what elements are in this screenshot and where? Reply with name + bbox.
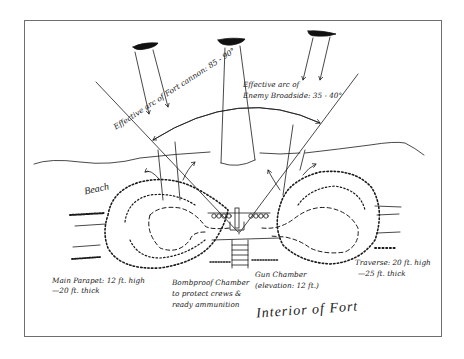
- main-parapet: [105, 180, 228, 269]
- bombproof-label-line2: to protect crews &: [172, 289, 241, 299]
- enemy-ship-center: [218, 38, 245, 45]
- enemy-ship-left: [133, 43, 158, 50]
- bombproof-label-line3: ready ammunition: [172, 300, 240, 310]
- bombproof-chamber: [210, 238, 280, 268]
- enemy-broadside-arc-label-line1: Effective arc of: [243, 80, 299, 90]
- gun-chamber: [208, 208, 270, 234]
- traverse: [277, 171, 379, 264]
- main-parapet-label-line1: Main Parapet: 12 ft. high: [52, 276, 145, 286]
- bombproof-label-line1: Bombproof Chamber: [172, 278, 249, 288]
- enemy-ship-right: [308, 31, 336, 36]
- traverse-label-line1: Traverse: 20 ft. high: [355, 258, 431, 268]
- gun-chamber-label-line2: (elevation: 12 ft.): [255, 281, 319, 291]
- gun-chamber-label-line1: Gun Chamber: [255, 270, 307, 280]
- traverse-label-line2: —25 ft. thick: [358, 269, 406, 279]
- main-parapet-label-line2: —20 ft. thick: [52, 286, 100, 296]
- enemy-broadside-arc-label-line2: Enemy Broadside: 35 - 40°: [243, 91, 342, 101]
